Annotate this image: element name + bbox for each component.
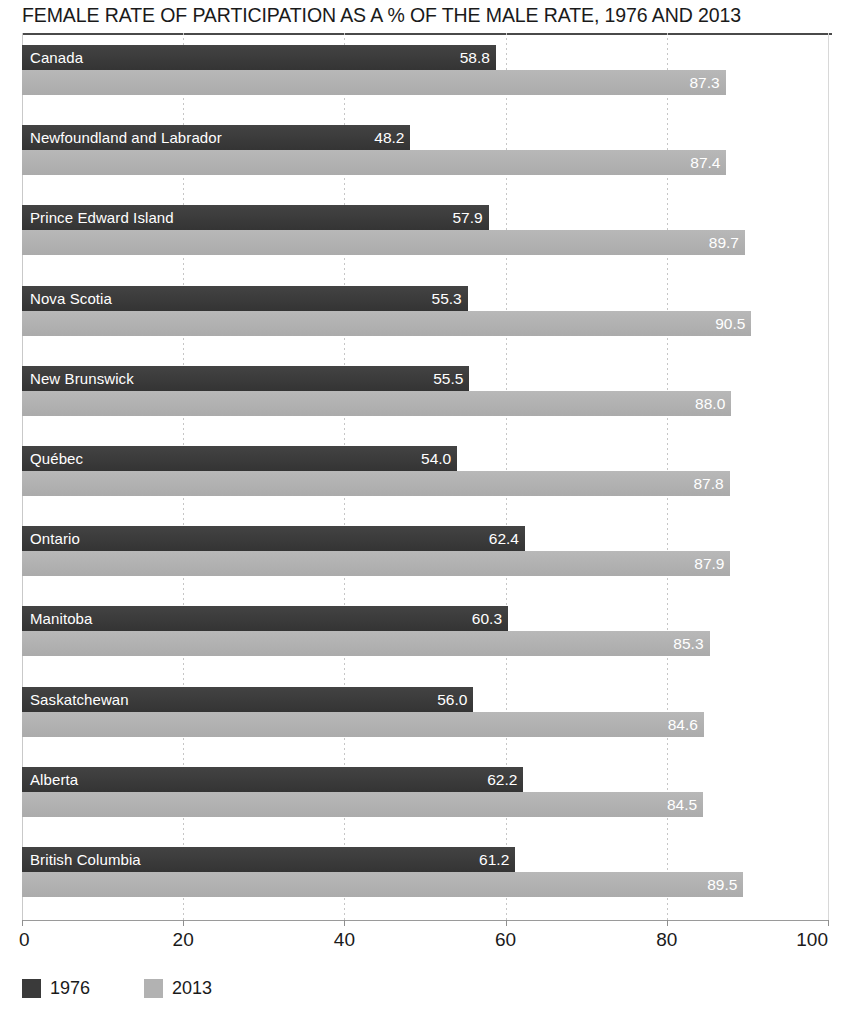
bar-2013: 90.5 <box>22 311 751 336</box>
category-label: Alberta <box>30 767 78 792</box>
bar-2013: 87.9 <box>22 551 730 576</box>
category-label: Ontario <box>30 526 80 551</box>
bar-group: British Columbia61.289.5 <box>22 847 828 898</box>
bar-1976: New Brunswick55.5 <box>22 366 469 391</box>
x-tick-mark <box>667 920 668 926</box>
bar-2013: 85.3 <box>22 631 710 656</box>
bar-value-2013: 87.3 <box>689 70 719 95</box>
category-label: Newfoundland and Labrador <box>30 125 222 150</box>
bar-value-1976: 55.5 <box>433 366 463 391</box>
bar-group: Newfoundland and Labrador48.287.4 <box>22 125 828 176</box>
bar-group: Saskatchewan56.084.6 <box>22 687 828 738</box>
plot-right-axis-line <box>828 33 829 920</box>
bar-value-2013: 90.5 <box>715 311 745 336</box>
bar-2013: 87.8 <box>22 471 730 496</box>
bar-1976: Prince Edward Island57.9 <box>22 205 489 230</box>
bar-value-2013: 87.8 <box>693 471 723 496</box>
bar-1976: Manitoba60.3 <box>22 606 508 631</box>
bar-value-1976: 58.8 <box>460 45 490 70</box>
legend-label: 1976 <box>50 978 90 999</box>
bar-group: Québec54.087.8 <box>22 446 828 497</box>
bar-1976: Ontario62.4 <box>22 526 525 551</box>
legend-label: 2013 <box>172 978 212 999</box>
plot-area: Canada58.887.3Newfoundland and Labrador4… <box>22 33 828 920</box>
bar-value-1976: 61.2 <box>479 847 509 872</box>
page-title: FEMALE RATE OF PARTICIPATION AS A % OF T… <box>22 2 832 28</box>
bar-group: Prince Edward Island57.989.7 <box>22 205 828 256</box>
bar-2013: 84.5 <box>22 792 703 817</box>
bar-value-2013: 87.4 <box>690 150 720 175</box>
x-tick-mark <box>828 920 829 926</box>
bar-2013: 89.5 <box>22 872 743 897</box>
x-tick-mark <box>183 920 184 926</box>
bar-group: Manitoba60.385.3 <box>22 606 828 657</box>
legend-item: 1976 <box>22 976 90 1000</box>
x-tick-label: 60 <box>495 929 516 951</box>
bar-1976: Québec54.0 <box>22 446 457 471</box>
category-label: Canada <box>30 45 83 70</box>
legend-item: 2013 <box>144 976 212 1000</box>
bar-value-1976: 62.4 <box>489 526 519 551</box>
legend-swatch-icon <box>22 979 41 998</box>
bar-value-2013: 89.5 <box>707 872 737 897</box>
bar-value-1976: 60.3 <box>472 606 502 631</box>
bar-group: Nova Scotia55.390.5 <box>22 286 828 337</box>
bar-value-2013: 85.3 <box>673 631 703 656</box>
plot-top-rule <box>22 33 832 35</box>
bar-value-1976: 48.2 <box>374 125 404 150</box>
x-tick-label: 20 <box>173 929 194 951</box>
chart-page: FEMALE RATE OF PARTICIPATION AS A % OF T… <box>0 0 843 1011</box>
bar-value-2013: 89.7 <box>709 230 739 255</box>
x-tick-label: 80 <box>656 929 677 951</box>
bar-value-2013: 87.9 <box>694 551 724 576</box>
bar-group: Alberta62.284.5 <box>22 767 828 818</box>
bar-value-2013: 88.0 <box>695 391 725 416</box>
bar-value-1976: 55.3 <box>432 286 462 311</box>
bar-1976: Alberta62.2 <box>22 767 523 792</box>
x-tick-mark <box>22 920 23 926</box>
bar-value-2013: 84.6 <box>668 712 698 737</box>
x-tick-label: 40 <box>334 929 355 951</box>
bar-2013: 89.7 <box>22 230 745 255</box>
category-label: Saskatchewan <box>30 687 129 712</box>
bar-value-1976: 57.9 <box>453 205 483 230</box>
bar-1976: Newfoundland and Labrador48.2 <box>22 125 410 150</box>
x-axis-line <box>22 920 829 921</box>
bar-value-1976: 62.2 <box>487 767 517 792</box>
bar-1976: British Columbia61.2 <box>22 847 515 872</box>
category-label: New Brunswick <box>30 366 134 391</box>
x-tick-label: 0 <box>19 929 30 951</box>
category-label: Prince Edward Island <box>30 205 174 230</box>
x-tick-mark <box>506 920 507 926</box>
bar-1976: Canada58.8 <box>22 45 496 70</box>
bar-2013: 87.3 <box>22 70 726 95</box>
bar-group: Ontario62.487.9 <box>22 526 828 577</box>
bar-value-1976: 54.0 <box>421 446 451 471</box>
x-tick-mark <box>344 920 345 926</box>
category-label: Québec <box>30 446 83 471</box>
x-tick-label: 100 <box>796 929 828 951</box>
category-label: British Columbia <box>30 847 141 872</box>
bar-2013: 88.0 <box>22 391 731 416</box>
bar-1976: Nova Scotia55.3 <box>22 286 468 311</box>
bar-value-2013: 84.5 <box>667 792 697 817</box>
bar-value-1976: 56.0 <box>437 687 467 712</box>
bar-group: Canada58.887.3 <box>22 45 828 96</box>
legend-swatch-icon <box>144 979 163 998</box>
bar-group: New Brunswick55.588.0 <box>22 366 828 417</box>
category-label: Manitoba <box>30 606 93 631</box>
category-label: Nova Scotia <box>30 286 112 311</box>
bar-2013: 84.6 <box>22 712 704 737</box>
bar-2013: 87.4 <box>22 150 726 175</box>
bar-1976: Saskatchewan56.0 <box>22 687 473 712</box>
